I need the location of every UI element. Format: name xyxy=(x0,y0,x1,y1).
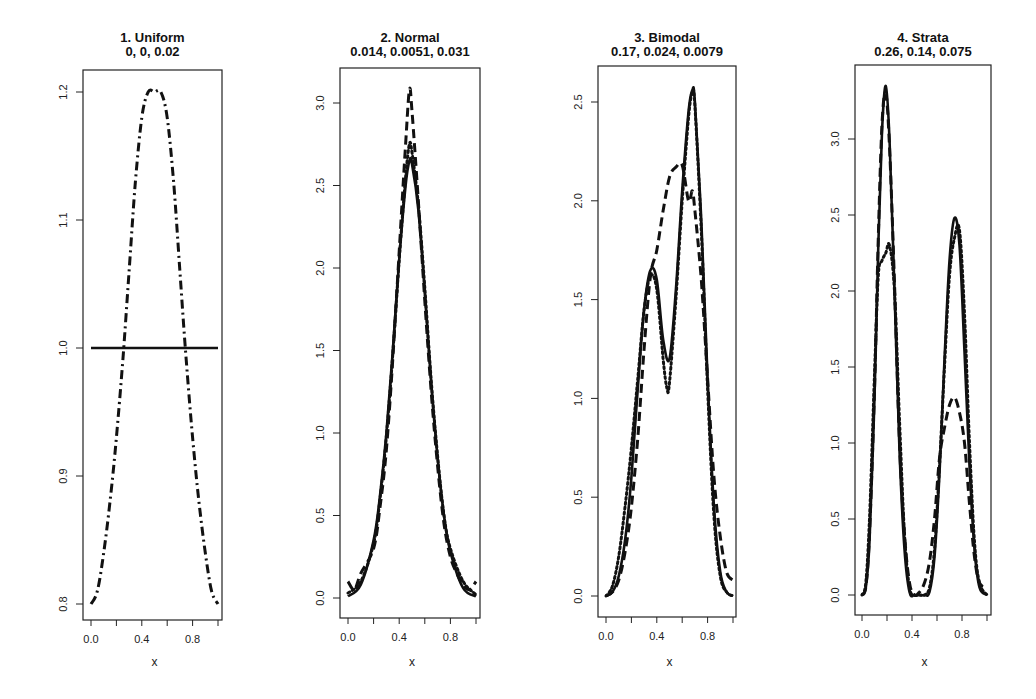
y-tick-label: 0.0 xyxy=(829,587,841,602)
x-tick-label: 0.8 xyxy=(185,633,200,645)
y-tick-label: 0.0 xyxy=(572,588,584,603)
y-tick-label: 2.5 xyxy=(572,94,584,109)
x-tick-label: 0.0 xyxy=(340,631,355,643)
y-tick-label: 1.0 xyxy=(829,435,841,450)
x-tick-label: 0.0 xyxy=(854,628,869,640)
curves xyxy=(91,90,218,604)
panel-title: 3. Bimodal xyxy=(634,30,700,45)
x-axis-label: x xyxy=(922,655,928,669)
y-tick-label: 2.5 xyxy=(314,178,326,193)
x-tick-label: 0.8 xyxy=(700,630,715,642)
panel-bimodal: 3. Bimodal 0.17, 0.024, 0.0079 x 0.00.51… xyxy=(572,30,736,669)
x-tick-label: 0.4 xyxy=(904,628,919,640)
series-true xyxy=(348,158,476,596)
y-tick-label: 1.0 xyxy=(572,391,584,406)
y-tick-label: 1.0 xyxy=(314,425,326,440)
y-tick-label: 1.5 xyxy=(314,343,326,358)
panel-title: 2. Normal xyxy=(380,30,439,45)
panel-subtitle: 0.17, 0.024, 0.0079 xyxy=(611,44,723,59)
y-tick-label: 0.5 xyxy=(572,490,584,505)
plot-frame xyxy=(340,68,480,618)
x-axis-label: x xyxy=(667,655,673,669)
curves xyxy=(606,87,733,596)
figure: 1. Uniform 0, 0, 0.02 x 0.80.91.01.11.20… xyxy=(0,0,1036,699)
panel-title: 4. Strata xyxy=(897,30,949,45)
y-tick-label: 1.1 xyxy=(57,212,69,227)
plot-frame xyxy=(83,70,222,620)
x-axis-label: x xyxy=(152,655,158,669)
panel-subtitle: 0.26, 0.14, 0.075 xyxy=(874,44,972,59)
curves xyxy=(348,88,476,596)
panel-subtitle: 0.014, 0.0051, 0.031 xyxy=(350,44,469,59)
x-tick-label: 0.4 xyxy=(649,630,664,642)
panel-uniform: 1. Uniform 0, 0, 0.02 x 0.80.91.01.11.20… xyxy=(57,30,222,669)
y-tick-label: 0.9 xyxy=(57,468,69,483)
x-tick-label: 0.4 xyxy=(134,633,149,645)
panel-subtitle: 0, 0, 0.02 xyxy=(125,44,179,59)
x-axis-label: x xyxy=(409,655,415,669)
y-tick-label: 1.5 xyxy=(572,292,584,307)
panel-strata: 4. Strata 0.26, 0.14, 0.075 x 0.00.51.01… xyxy=(829,30,991,669)
y-tick-label: 1.0 xyxy=(57,340,69,355)
y-tick-label: 2.0 xyxy=(829,283,841,298)
panel-normal: 2. Normal 0.014, 0.0051, 0.031 x 0.00.51… xyxy=(314,30,480,669)
y-tick-label: 0.5 xyxy=(314,508,326,523)
y-tick-label: 0.5 xyxy=(829,511,841,526)
y-tick-label: 3.0 xyxy=(829,131,841,146)
series-estimate-dotted xyxy=(606,89,733,596)
y-tick-label: 3.0 xyxy=(314,95,326,110)
y-tick-label: 0.0 xyxy=(314,590,326,605)
series-estimate-dotted xyxy=(348,142,476,594)
panel-title: 1. Uniform xyxy=(120,30,184,45)
y-tick-label: 2.5 xyxy=(829,207,841,222)
series-estimate-dotted xyxy=(862,225,987,596)
y-tick-label: 2.0 xyxy=(572,193,584,208)
y-tick-label: 1.5 xyxy=(829,359,841,374)
x-tick-label: 0.8 xyxy=(443,631,458,643)
x-tick-label: 0.0 xyxy=(598,630,613,642)
x-tick-label: 0.4 xyxy=(392,631,407,643)
x-tick-label: 0.8 xyxy=(954,628,969,640)
y-tick-label: 0.8 xyxy=(57,596,69,611)
y-tick-label: 2.0 xyxy=(314,260,326,275)
x-tick-label: 0.0 xyxy=(83,633,98,645)
y-tick-label: 1.2 xyxy=(57,84,69,99)
series-estimate-dashed xyxy=(862,93,987,596)
curves xyxy=(862,86,987,596)
